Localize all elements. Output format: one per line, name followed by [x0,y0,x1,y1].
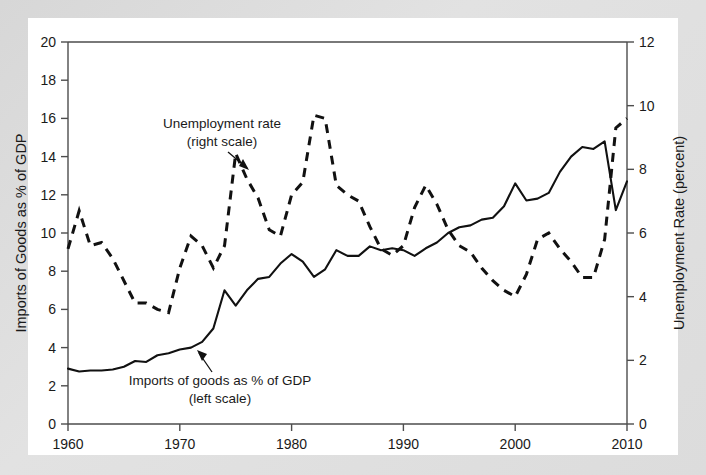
left-axis-tick-label: 4 [48,340,56,356]
left-axis-tick-label: 6 [48,301,56,317]
left-axis-tick-label: 12 [40,187,56,203]
left-axis-tick-label: 10 [40,225,56,241]
imports-annotation-line2: (left scale) [189,391,251,406]
imports-annotation-line1: Imports of goods as % of GDP [129,373,311,388]
unemployment-annotation-line2: (right scale) [187,134,258,149]
x-axis-tick-label: 1970 [164,436,195,452]
right-axis-tick-label: 2 [639,352,647,368]
left-axis-tick-label: 0 [48,416,56,432]
chart-figure: 0246810121416182002468101219601970198019… [0,0,706,475]
series-unemployment-rate [68,115,627,312]
x-axis-tick-label: 2000 [500,436,531,452]
left-axis-tick-label: 2 [48,378,56,394]
left-axis-title: Imports of Goods as % of GDP [13,133,29,332]
right-axis-tick-label: 10 [639,98,655,114]
imports-annotation-arrowhead [197,350,207,361]
right-axis-tick-label: 4 [639,289,647,305]
x-axis-tick-label: 1990 [388,436,419,452]
x-axis-tick-label: 1980 [276,436,307,452]
left-axis-tick-label: 18 [40,72,56,88]
left-axis-tick-label: 20 [40,34,56,50]
x-axis-tick-label: 2010 [611,436,642,452]
page-background: 0246810121416182002468101219601970198019… [0,0,706,475]
left-axis-tick-label: 8 [48,263,56,279]
right-axis-title: Unemployment Rate (percent) [671,136,687,330]
series-group [68,115,627,371]
unemployment-annotation-line1: Unemployment rate [163,116,281,131]
right-axis-tick-label: 12 [639,34,655,50]
right-axis-tick-label: 6 [639,225,647,241]
x-axis-tick-label: 1960 [52,436,83,452]
left-axis-tick-label: 14 [40,149,56,165]
series-imports-of-goods [68,141,627,371]
left-axis-tick-label: 16 [40,110,56,126]
right-axis-tick-label: 8 [639,161,647,177]
axes-group: 0246810121416182002468101219601970198019… [13,34,687,452]
right-axis-tick-label: 0 [639,416,647,432]
